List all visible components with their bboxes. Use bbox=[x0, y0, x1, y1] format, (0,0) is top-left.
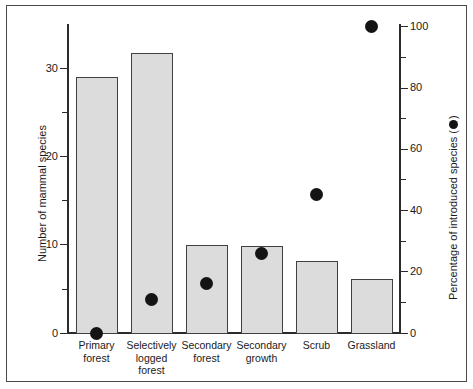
category-label-grassland: Grassland bbox=[344, 339, 399, 352]
dot-selectively-logged-forest[interactable] bbox=[145, 293, 158, 306]
category-label-primary-forest: Primary forest bbox=[69, 339, 124, 364]
right-tick-label-20: 20 bbox=[410, 266, 422, 277]
dot-secondary-growth[interactable] bbox=[255, 247, 268, 260]
right-tick-label-40: 40 bbox=[410, 205, 422, 216]
plot-area: 0 10 20 30 0 20 40 60 80 100 bbox=[0, 0, 473, 389]
left-axis-line bbox=[67, 24, 69, 334]
right-tick-20 bbox=[400, 271, 408, 272]
y-axis-title: Number of mammal species bbox=[36, 125, 48, 262]
category-label-scrub: Scrub bbox=[289, 339, 344, 352]
right-tick-label-60: 60 bbox=[410, 143, 422, 154]
y2-axis-title-text-before: Percentage of introduced species ( bbox=[447, 130, 459, 300]
right-tick-90 bbox=[400, 57, 406, 58]
left-tick-5 bbox=[62, 289, 68, 290]
left-tick-20 bbox=[60, 156, 68, 157]
bar-grassland[interactable] bbox=[351, 279, 393, 334]
y2-axis-title: Percentage of introduced species () bbox=[447, 115, 459, 300]
right-tick-label-80: 80 bbox=[410, 82, 422, 93]
right-tick-label-0: 0 bbox=[410, 328, 416, 339]
bar-primary-forest[interactable] bbox=[76, 77, 118, 334]
left-tick-label-0: 0 bbox=[52, 328, 58, 339]
right-tick-100 bbox=[400, 26, 408, 27]
right-tick-40 bbox=[400, 210, 408, 211]
bar-scrub[interactable] bbox=[296, 261, 338, 334]
right-tick-80 bbox=[400, 88, 408, 89]
right-tick-50 bbox=[400, 179, 406, 180]
left-tick-30 bbox=[60, 68, 68, 69]
category-label-secondary-growth: Secondary growth bbox=[234, 339, 289, 364]
right-tick-30 bbox=[400, 241, 406, 242]
legend-filled-circle-icon bbox=[449, 120, 458, 129]
left-tick-10 bbox=[60, 244, 68, 245]
dot-primary-forest[interactable] bbox=[90, 327, 103, 340]
y2-axis-title-text-after: ) bbox=[447, 115, 459, 119]
right-tick-10 bbox=[400, 302, 406, 303]
right-tick-0 bbox=[400, 333, 408, 334]
category-label-selectively-logged-forest: Selectively logged forest bbox=[124, 339, 179, 377]
left-tick-0 bbox=[60, 333, 68, 334]
chart-figure: 0 10 20 30 0 20 40 60 80 100 bbox=[0, 0, 473, 389]
category-label-secondary-forest: Secondary forest bbox=[179, 339, 234, 364]
bar-selectively-logged-forest[interactable] bbox=[131, 53, 173, 334]
right-tick-60 bbox=[400, 149, 408, 150]
left-tick-25 bbox=[62, 112, 68, 113]
right-tick-70 bbox=[400, 118, 406, 119]
dot-grassland[interactable] bbox=[365, 20, 378, 33]
dot-scrub[interactable] bbox=[310, 188, 323, 201]
right-tick-label-100: 100 bbox=[410, 21, 428, 32]
left-tick-15 bbox=[62, 200, 68, 201]
left-tick-label-30: 30 bbox=[46, 63, 58, 74]
